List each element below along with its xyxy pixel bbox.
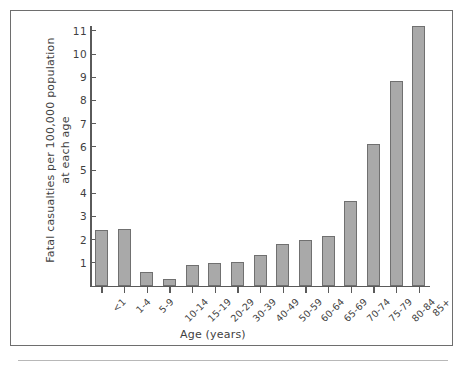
x-tick-mark <box>192 287 193 293</box>
y-tick-mark <box>90 100 96 101</box>
y-tick-mark <box>90 54 96 55</box>
x-axis-title: Age (years) <box>180 328 246 341</box>
bar <box>322 236 335 286</box>
x-tick-label: 1-4 <box>134 296 153 315</box>
x-tick-mark <box>101 287 102 293</box>
bar <box>276 244 289 286</box>
x-tick-mark <box>215 287 216 293</box>
bar <box>208 263 221 286</box>
x-tick-label: 20-29 <box>228 296 256 324</box>
x-tick-mark <box>169 287 170 293</box>
bar <box>231 262 244 286</box>
x-tick-label: 15-19 <box>205 296 233 324</box>
bar <box>95 230 108 286</box>
y-tick-label: 8 <box>80 94 87 106</box>
x-tick-mark <box>305 287 306 293</box>
y-tick-label: 3 <box>80 210 87 222</box>
x-tick-label: 70-74 <box>364 296 392 324</box>
y-tick-label: 6 <box>80 141 87 153</box>
x-tick-mark <box>260 287 261 293</box>
bar <box>390 81 403 286</box>
y-tick-label: 4 <box>80 187 87 199</box>
x-tick-label: 75-79 <box>387 296 415 324</box>
y-tick-label: 10 <box>73 48 87 60</box>
y-tick-label: 7 <box>80 118 87 130</box>
y-axis-title-line1: Fatal casualties per 100,000 population <box>43 25 58 275</box>
x-tick-mark <box>396 287 397 293</box>
x-tick-label: 10-14 <box>183 296 211 324</box>
y-tick-label: 11 <box>73 25 87 37</box>
y-axis-title-line2: at each age <box>58 25 73 275</box>
bar <box>367 144 380 286</box>
y-tick-label: 1 <box>80 257 87 269</box>
bar-chart-plot-area: 1234567891011 <11-45-910-1415-1920-2930-… <box>0 0 467 366</box>
bar <box>299 240 312 286</box>
x-tick-label: <1 <box>111 296 129 314</box>
x-tick-label: 40-49 <box>273 296 301 324</box>
bar <box>118 229 131 286</box>
y-tick-mark <box>90 77 96 78</box>
y-tick-label: 9 <box>80 71 87 83</box>
bar <box>254 255 267 286</box>
x-tick-mark <box>124 287 125 293</box>
x-tick-mark <box>373 287 374 293</box>
x-tick-mark <box>351 287 352 293</box>
y-tick-mark <box>90 30 96 31</box>
x-tick-label: 50-59 <box>296 296 324 324</box>
bar <box>186 265 199 286</box>
x-tick-mark <box>328 287 329 293</box>
bar <box>344 201 357 286</box>
y-axis-line <box>90 26 92 287</box>
y-tick-label: 2 <box>80 234 87 246</box>
x-tick-mark <box>283 287 284 293</box>
x-tick-label: 30-39 <box>251 296 279 324</box>
x-tick-mark <box>147 287 148 293</box>
x-tick-mark <box>237 287 238 293</box>
x-tick-label: 60-64 <box>319 296 347 324</box>
bar <box>140 272 153 286</box>
y-tick-label: 5 <box>80 164 87 176</box>
y-tick-mark <box>90 146 96 147</box>
x-tick-mark <box>419 287 420 293</box>
bar <box>163 279 176 286</box>
y-tick-mark <box>90 123 96 124</box>
bar <box>412 26 425 286</box>
y-axis-title: Fatal casualties per 100,000 population … <box>43 25 73 275</box>
y-tick-mark <box>90 170 96 171</box>
x-tick-label: 5-9 <box>156 296 175 315</box>
y-tick-mark <box>90 193 96 194</box>
y-tick-mark <box>90 216 96 217</box>
x-tick-label: 65-69 <box>341 296 369 324</box>
